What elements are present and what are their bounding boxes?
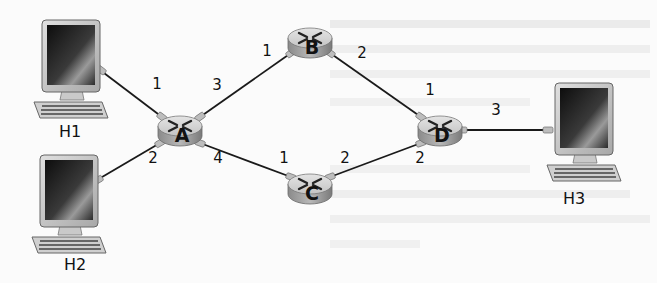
port-stubs (92, 48, 553, 185)
network-diagram: A B C D H1 H2 H3 1 3 2 4 1 2 1 2 1 3 2 (0, 0, 657, 283)
interface-a-4: 4 (213, 149, 223, 167)
interface-a-2: 2 (148, 149, 158, 167)
interface-a-3: 3 (212, 76, 222, 94)
host-h3 (547, 83, 621, 181)
computer-icon (547, 83, 621, 181)
router-label-c: C (305, 182, 319, 204)
host-h1 (34, 20, 108, 118)
interface-d-3: 3 (491, 101, 501, 119)
interface-b-1: 1 (262, 42, 272, 60)
interface-c-1: 1 (279, 149, 289, 167)
computer-icon (34, 20, 108, 118)
interface-d-1: 1 (425, 81, 435, 99)
link-b-d (330, 53, 421, 117)
interface-a-1: 1 (152, 75, 162, 93)
interface-b-2: 2 (357, 44, 367, 62)
host-h2 (32, 155, 106, 253)
router-label-a: A (175, 124, 190, 146)
host-label-h2: H2 (64, 255, 86, 274)
interface-c-2: 2 (340, 149, 350, 167)
interface-d-2: 2 (415, 149, 425, 167)
router-label-b: B (305, 36, 319, 58)
host-label-h1: H1 (59, 122, 81, 141)
computer-icon (32, 155, 106, 253)
router-label-d: D (434, 124, 450, 146)
host-label-h3: H3 (563, 189, 585, 208)
